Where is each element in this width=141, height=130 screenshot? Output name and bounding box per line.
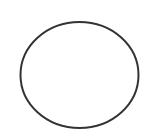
ellipse-shape	[21, 22, 139, 128]
diagram-canvas	[0, 0, 141, 130]
